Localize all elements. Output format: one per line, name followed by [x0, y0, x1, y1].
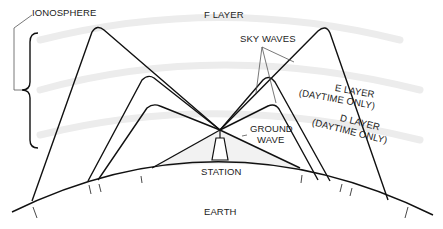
ionosphere-brace	[22, 33, 38, 148]
ionosphere-label: IONOSPHERE	[32, 7, 96, 18]
sky-waves-label: SKY WAVES	[240, 33, 296, 44]
ground-wave-label-1: GROUND	[250, 123, 293, 134]
ionospheric-propagation-diagram	[0, 0, 443, 229]
station-label: STATION	[201, 166, 241, 177]
earth-label: EARTH	[204, 206, 237, 217]
ground-wave-pointer	[242, 135, 247, 136]
ground-wave-label-2: WAVE	[257, 134, 284, 145]
f-layer-label: F LAYER	[204, 9, 244, 20]
